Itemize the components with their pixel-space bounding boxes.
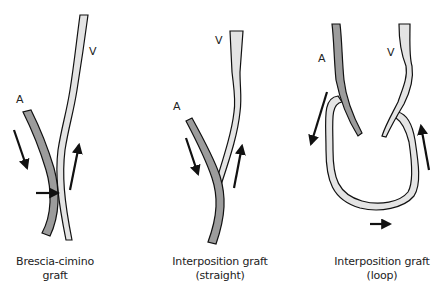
label-vein: V bbox=[215, 34, 223, 47]
caption-line: (loop) bbox=[322, 269, 441, 283]
arrow-outflow-up bbox=[234, 146, 242, 188]
arrow-inflow-down bbox=[14, 130, 27, 168]
caption-line: Brescia-cimino bbox=[5, 255, 105, 269]
loop-graft bbox=[326, 96, 419, 210]
arrow-outflow-up bbox=[70, 145, 79, 190]
caption-interposition-loop: Interposition graft (loop) bbox=[322, 255, 441, 283]
panel-brescia-cimino bbox=[14, 15, 88, 240]
arrow-inflow-down bbox=[186, 138, 198, 174]
caption-line: Interposition graft bbox=[322, 255, 441, 269]
arrow-outflow-up bbox=[421, 126, 429, 170]
panel-interposition-loop bbox=[311, 24, 429, 224]
panel-interposition-straight bbox=[186, 31, 243, 244]
artery-vessel bbox=[23, 110, 58, 236]
vein-vessel bbox=[57, 15, 88, 240]
caption-line: graft bbox=[5, 269, 105, 283]
label-artery: A bbox=[173, 100, 181, 113]
label-vein: V bbox=[89, 45, 97, 58]
label-artery: A bbox=[16, 93, 24, 106]
label-artery: A bbox=[318, 52, 326, 65]
caption-brescia-cimino: Brescia-cimino graft bbox=[5, 255, 105, 283]
caption-interposition-straight: Interposition graft (straight) bbox=[160, 255, 280, 283]
caption-line: (straight) bbox=[160, 269, 280, 283]
label-vein: V bbox=[387, 46, 395, 59]
artery-vessel bbox=[332, 24, 362, 136]
artery-vessel bbox=[186, 118, 224, 244]
arrow-inflow-down-left bbox=[311, 92, 327, 144]
caption-line: Interposition graft bbox=[160, 255, 280, 269]
